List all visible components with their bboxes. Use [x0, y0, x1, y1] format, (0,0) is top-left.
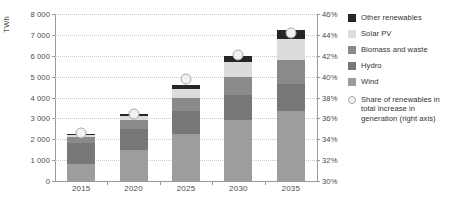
x-axis-line [55, 181, 317, 182]
y-axis-tick-label: 1 000 [30, 156, 50, 165]
y-axis-tick-mark [52, 14, 55, 15]
y-axis-tick-mark [52, 98, 55, 99]
bar-segment-wind [120, 150, 148, 181]
legend-swatch-icon [348, 46, 356, 54]
bar-2035 [277, 14, 305, 181]
x-axis-tick-label: 2035 [271, 184, 311, 193]
plot-area: 01 0002 0003 0004 0005 0006 0007 0008 00… [55, 14, 317, 181]
legend-item-label: Other renewables [361, 13, 422, 22]
legend-item-hydro[interactable]: Hydro [348, 61, 451, 70]
y-axis-tick-label: 8 000 [30, 10, 50, 19]
y2-axis-tick-label: 32% [322, 156, 338, 165]
bar-segment-hydro [277, 84, 305, 112]
y-axis-tick-label: 0 [46, 177, 50, 186]
y-axis-tick-mark [52, 181, 55, 182]
y2-axis-tick-mark [317, 98, 320, 99]
legend-swatch-icon [348, 30, 356, 38]
bar-segment-hydro [67, 143, 95, 164]
y-axis-tick-label: 2 000 [30, 135, 50, 144]
chart-root: TWh 01 0002 0003 0004 0005 0006 0007 000… [0, 0, 451, 211]
bar-segment-biomass-and-waste [120, 120, 148, 129]
x-axis-tick-label: 2030 [218, 184, 258, 193]
x-axis-tick-mark [265, 181, 266, 185]
y-axis-tick-label: 3 000 [30, 114, 50, 123]
y2-axis-tick-label: 30% [322, 177, 338, 186]
y-axis-tick-label: 4 000 [30, 93, 50, 102]
y2-axis-tick-label: 36% [322, 114, 338, 123]
y2-axis-tick-label: 34% [322, 135, 338, 144]
legend-swatch-icon [348, 62, 356, 70]
y-axis-tick-label: 5 000 [30, 72, 50, 81]
share-marker-2030 [233, 49, 244, 60]
legend-swatch-icon [348, 78, 356, 86]
legend-item-biomass-and-waste[interactable]: Biomass and waste [348, 45, 451, 54]
bar-segment-solar-pv [277, 39, 305, 60]
bar-segment-biomass-and-waste [224, 77, 252, 96]
y2-axis-tick-label: 38% [322, 93, 338, 102]
legend-item-label: Hydro [361, 61, 382, 70]
bar-segment-solar-pv [172, 89, 200, 98]
y2-axis-tick-mark [317, 139, 320, 140]
bar-2015 [67, 14, 95, 181]
legend-item-share-of-renewables[interactable]: Share of renewables in total increase in… [348, 95, 451, 123]
bar-segment-wind [172, 134, 200, 181]
bar-segment-solar-pv [224, 62, 252, 76]
bar-segment-hydro [172, 111, 200, 134]
x-axis-tick-mark [107, 181, 108, 185]
legend-item-wind[interactable]: Wind [348, 77, 451, 86]
x-axis-tick-label: 2025 [166, 184, 206, 193]
bar-2020 [120, 14, 148, 181]
y2-axis-tick-mark [317, 160, 320, 161]
y2-axis-tick-mark [317, 77, 320, 78]
y-axis-tick-label: 7 000 [30, 30, 50, 39]
y2-axis-tick-mark [317, 118, 320, 119]
share-marker-2015 [76, 127, 87, 138]
bar-2030 [224, 14, 252, 181]
legend-item-solar-pv[interactable]: Solar PV [348, 29, 451, 38]
y2-axis-tick-mark [317, 181, 320, 182]
legend-item-label: Solar PV [361, 29, 391, 38]
legend-item-label: Wind [361, 77, 379, 86]
x-axis-tick-mark [160, 181, 161, 185]
y-axis-tick-mark [52, 118, 55, 119]
bar-segment-wind [224, 120, 252, 181]
y2-axis-tick-label: 46% [322, 10, 338, 19]
share-marker-2020 [128, 109, 139, 120]
y2-axis-tick-mark [317, 56, 320, 57]
y-axis-tick-label: 6 000 [30, 51, 50, 60]
bar-segment-biomass-and-waste [277, 60, 305, 84]
chart-legend: Other renewablesSolar PVBiomass and wast… [348, 13, 451, 130]
share-marker-2035 [285, 27, 296, 38]
y-axis-tick-mark [52, 160, 55, 161]
y2-axis-tick-label: 44% [322, 30, 338, 39]
y-axis-tick-mark [52, 139, 55, 140]
y2-axis-tick-label: 42% [322, 51, 338, 60]
legend-circle-marker-icon [348, 96, 356, 104]
y2-axis-tick-mark [317, 14, 320, 15]
bar-segment-biomass-and-waste [172, 98, 200, 111]
x-axis-tick-label: 2020 [114, 184, 154, 193]
y-axis-tick-mark [52, 35, 55, 36]
y-axis-tick-mark [52, 77, 55, 78]
x-axis-tick-label: 2015 [61, 184, 101, 193]
legend-item-label: Biomass and waste [361, 45, 428, 54]
bar-segment-wind [67, 164, 95, 181]
bar-segment-wind [277, 111, 305, 181]
y-axis-unit-label: TWh [2, 16, 11, 33]
y2-axis-tick-label: 40% [322, 72, 338, 81]
share-marker-2025 [181, 73, 192, 84]
bar-segment-other-renewables [172, 85, 200, 89]
bar-segment-hydro [224, 95, 252, 120]
legend-swatch-icon [348, 14, 356, 22]
legend-note-label: Share of renewables in total increase in… [361, 95, 451, 123]
legend-item-other-renewables[interactable]: Other renewables [348, 13, 451, 22]
bar-2025 [172, 14, 200, 181]
y2-axis-tick-mark [317, 35, 320, 36]
x-axis-tick-mark [212, 181, 213, 185]
y-axis-tick-mark [52, 56, 55, 57]
bar-segment-hydro [120, 129, 148, 150]
